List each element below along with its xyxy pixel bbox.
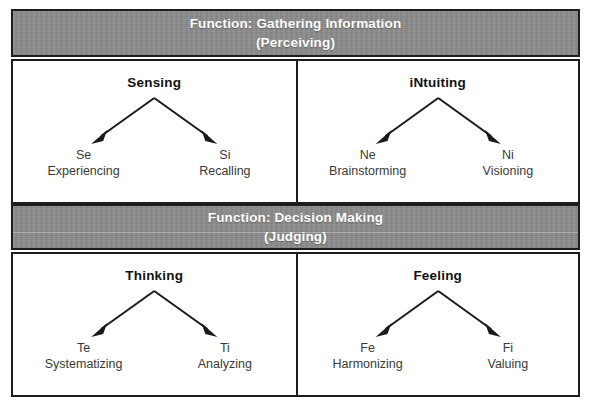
- branch-arrows-intuiting-svg: [298, 94, 579, 149]
- leaf-ti: Ti Analyzing: [154, 340, 295, 372]
- leaf-ne-desc: Brainstorming: [298, 163, 438, 179]
- branch-arrows-feeling: [298, 287, 579, 342]
- quadrant-title-intuiting: iNtuiting: [298, 75, 579, 90]
- section-header-judging-title: Function: Decision Making: [208, 208, 384, 227]
- leaf-fi-desc: Valuing: [438, 356, 578, 372]
- quadrant-thinking: Thinking Te Systematizing Ti Analyzing: [13, 254, 296, 395]
- leaf-fe: Fe Harmonizing: [298, 340, 438, 372]
- section-header-perceiving: Function: Gathering Information (Perceiv…: [11, 9, 580, 57]
- section-header-perceiving-subtitle: (Perceiving): [256, 33, 335, 52]
- branch-arrows-sensing-svg: [13, 94, 296, 149]
- leaf-se-desc: Experiencing: [13, 163, 154, 179]
- leaf-fe-desc: Harmonizing: [298, 356, 438, 372]
- leaf-labels-intuiting: Ne Brainstorming Ni Visioning: [298, 147, 579, 179]
- leaf-te: Te Systematizing: [13, 340, 154, 372]
- section-header-judging: Function: Decision Making (Judging): [11, 204, 580, 250]
- leaf-se: Se Experiencing: [13, 147, 154, 179]
- quadrant-title-thinking: Thinking: [13, 268, 296, 283]
- branch-arrows-thinking: [13, 287, 296, 342]
- section-header-judging-subtitle: (Judging): [264, 227, 327, 246]
- quadrant-title-sensing: Sensing: [13, 75, 296, 90]
- leaf-si: Si Recalling: [154, 147, 295, 179]
- leaf-labels-thinking: Te Systematizing Ti Analyzing: [13, 340, 296, 372]
- leaf-labels-feeling: Fe Harmonizing Fi Valuing: [298, 340, 579, 372]
- leaf-fi: Fi Valuing: [438, 340, 578, 372]
- leaf-ti-code: Ti: [154, 340, 295, 356]
- leaf-ti-desc: Analyzing: [154, 356, 295, 372]
- quadrant-title-feeling: Feeling: [298, 268, 579, 283]
- leaf-se-code: Se: [13, 147, 154, 163]
- branch-arrows-thinking-svg: [13, 287, 296, 342]
- leaf-te-desc: Systematizing: [13, 356, 154, 372]
- quadrant-sensing: Sensing Se Experiencing Si Recalling: [13, 61, 296, 202]
- leaf-si-code: Si: [154, 147, 295, 163]
- leaf-ni: Ni Visioning: [438, 147, 578, 179]
- leaf-ne-code: Ne: [298, 147, 438, 163]
- branch-arrows-feeling-svg: [298, 287, 579, 342]
- leaf-labels-sensing: Se Experiencing Si Recalling: [13, 147, 296, 179]
- leaf-fe-code: Fe: [298, 340, 438, 356]
- leaf-ne: Ne Brainstorming: [298, 147, 438, 179]
- quadrant-row-judging: Thinking Te Systematizing Ti Analyzing: [11, 252, 580, 397]
- leaf-ni-code: Ni: [438, 147, 578, 163]
- leaf-te-code: Te: [13, 340, 154, 356]
- branch-arrows-intuiting: [298, 94, 579, 149]
- leaf-fi-code: Fi: [438, 340, 578, 356]
- branch-arrows-sensing: [13, 94, 296, 149]
- quadrant-intuiting: iNtuiting Ne Brainstorming Ni Visioning: [296, 61, 579, 202]
- section-header-perceiving-title: Function: Gathering Information: [190, 14, 402, 33]
- quadrant-feeling: Feeling Fe Harmonizing Fi Valuing: [296, 254, 579, 395]
- cognitive-functions-diagram: Function: Gathering Information (Perceiv…: [11, 9, 580, 397]
- leaf-ni-desc: Visioning: [438, 163, 578, 179]
- leaf-si-desc: Recalling: [154, 163, 295, 179]
- quadrant-row-perceiving: Sensing Se Experiencing Si Recalling: [11, 59, 580, 204]
